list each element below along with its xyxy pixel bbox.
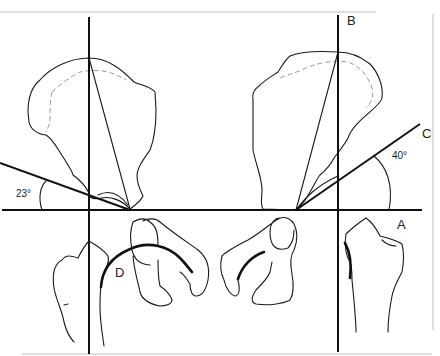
reference-lines	[0, 15, 422, 354]
right-femur-outline	[345, 218, 403, 332]
label-c: C	[422, 126, 431, 141]
left-ilium-outline	[28, 58, 156, 209]
left-angle-line	[0, 163, 130, 210]
label-d: D	[115, 265, 124, 280]
angle-arc-40	[374, 156, 391, 210]
angle-label-40: 40°	[392, 150, 407, 161]
right-pelvic-fragment	[221, 217, 297, 304]
angle-arc-23	[40, 180, 47, 210]
label-a: A	[397, 217, 406, 232]
diagram-figure: B C A D 23° 40°	[0, 0, 440, 356]
line-c-angle	[296, 124, 420, 210]
label-b: B	[347, 13, 356, 28]
angle-label-23: 23°	[16, 188, 31, 199]
left-pelvic-fragment	[131, 219, 209, 306]
left-femur-outline	[53, 241, 108, 346]
right-ilium-outline	[253, 52, 383, 210]
right-acetabulum-arc	[238, 252, 264, 279]
